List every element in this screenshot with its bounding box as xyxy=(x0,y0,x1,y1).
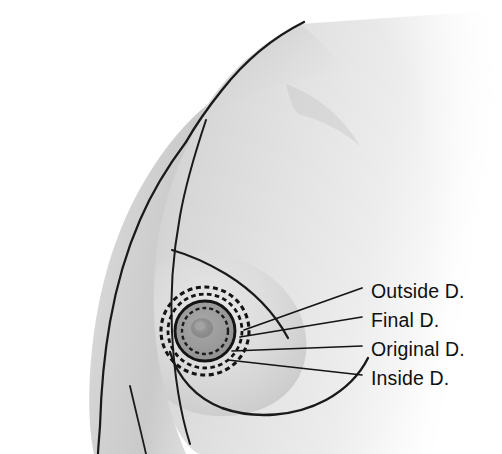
callout-label-outside-d: Outside D. xyxy=(371,282,465,302)
breast-diagram-figure: Outside D.Final D.Original D.Inside D. xyxy=(0,0,502,454)
areola-marking-group xyxy=(161,287,249,375)
callout-label-inside-d: Inside D. xyxy=(371,369,449,389)
callout-label-original-d: Original D. xyxy=(371,340,465,360)
callout-label-final-d: Final D. xyxy=(371,311,439,331)
nipple-highlight xyxy=(195,321,206,331)
